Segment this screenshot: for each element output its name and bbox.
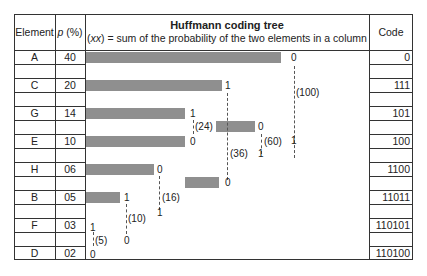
probability-cell: 06 bbox=[55, 162, 85, 176]
probability-cell: 14 bbox=[55, 106, 85, 120]
bar-a bbox=[86, 52, 281, 63]
element-cell: G bbox=[14, 106, 55, 120]
header-tree: Huffmann coding tree (xx) = sum of the p… bbox=[85, 14, 369, 50]
bit-label: 1 bbox=[258, 149, 264, 159]
code-cell: 110101 bbox=[369, 218, 413, 232]
bit-label: 0 bbox=[258, 122, 264, 132]
header-code: Code bbox=[369, 14, 413, 50]
bit-label: 0 bbox=[157, 165, 163, 175]
bar-c bbox=[86, 80, 222, 91]
probability-cell: 10 bbox=[55, 134, 85, 148]
tree-title: Huffmann coding tree bbox=[170, 19, 284, 32]
bit-label: 0 bbox=[291, 53, 297, 63]
element-cell: B bbox=[14, 190, 55, 204]
bar-node-24 bbox=[216, 121, 255, 132]
sum-label-10: (10) bbox=[128, 214, 146, 224]
element-cell: E bbox=[14, 134, 55, 148]
bit-label: 0 bbox=[124, 236, 130, 246]
tree-subtitle: (xx) = sum of the probability of the two… bbox=[87, 32, 367, 45]
element-cell: F bbox=[14, 218, 55, 232]
bit-label: 0 bbox=[190, 137, 196, 147]
sum-label-60: (60) bbox=[264, 137, 282, 147]
bar-e bbox=[86, 136, 185, 147]
sum-label-36: (36) bbox=[230, 149, 248, 159]
element-cell: A bbox=[14, 50, 55, 64]
element-cell: C bbox=[14, 78, 55, 92]
bit-label: 0 bbox=[90, 250, 96, 260]
connector-36 bbox=[227, 93, 228, 180]
bit-label: 1 bbox=[90, 223, 96, 233]
code-cell: 111 bbox=[369, 78, 413, 92]
bit-label: 1 bbox=[124, 193, 130, 203]
code-cell: 101 bbox=[369, 106, 413, 120]
connector-10 bbox=[126, 204, 127, 234]
code-cell: 0 bbox=[369, 50, 413, 64]
bit-label: 1 bbox=[225, 81, 231, 91]
probability-cell: 40 bbox=[55, 50, 85, 64]
sum-label-5: (5) bbox=[95, 236, 107, 246]
element-cell: H bbox=[14, 162, 55, 176]
header-element: Element bbox=[14, 14, 55, 50]
probability-cell: 03 bbox=[55, 218, 85, 232]
code-cell: 100 bbox=[369, 134, 413, 148]
bit-label: 0 bbox=[225, 178, 231, 188]
sum-label-24: (24) bbox=[195, 122, 213, 132]
sum-label-100: (100) bbox=[296, 88, 319, 98]
code-cell: 1100 bbox=[369, 162, 413, 176]
bar-g bbox=[86, 108, 185, 119]
bit-label: 1 bbox=[190, 109, 196, 119]
bar-node-16 bbox=[185, 177, 219, 188]
connector-5 bbox=[93, 232, 94, 246]
code-cell: 11011 bbox=[369, 190, 413, 204]
bit-label: 1 bbox=[157, 208, 163, 218]
sum-label-16: (16) bbox=[162, 193, 180, 203]
code-cell: 110100 bbox=[369, 246, 413, 260]
probability-cell: 20 bbox=[55, 78, 85, 92]
header-probability: p (%) bbox=[55, 14, 85, 50]
probability-cell: 02 bbox=[55, 246, 85, 260]
connector-16 bbox=[159, 176, 160, 210]
bar-h bbox=[86, 164, 154, 175]
bar-b bbox=[86, 192, 120, 203]
connector-24 bbox=[193, 120, 194, 134]
probability-cell: 05 bbox=[55, 190, 85, 204]
bit-label: 1 bbox=[291, 136, 297, 146]
element-cell: D bbox=[14, 246, 55, 260]
